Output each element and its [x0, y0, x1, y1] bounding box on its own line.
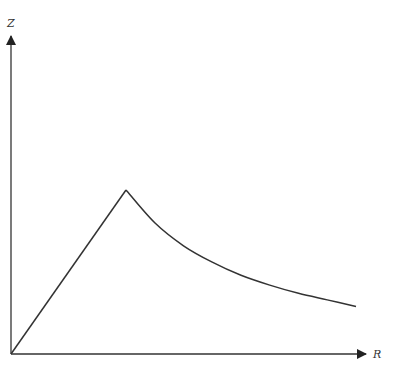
y-axis-label: Z	[6, 17, 15, 30]
rising-segment	[11, 190, 126, 354]
decay-segment	[126, 190, 356, 306]
x-axis-label: R	[372, 348, 381, 361]
diagram-canvas: Z R	[0, 0, 395, 371]
series-group	[11, 190, 356, 354]
